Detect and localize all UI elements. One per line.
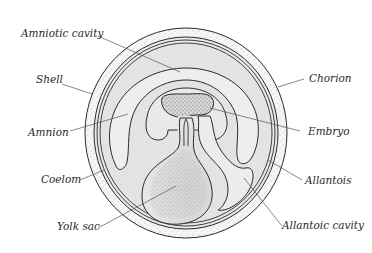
leader-chorion xyxy=(278,79,304,87)
label-amniotic-cavity: Amniotic cavity xyxy=(21,28,103,39)
label-shell: Shell xyxy=(36,74,63,85)
leader-shell xyxy=(62,84,92,94)
amniotic-egg-diagram: Amniotic cavity Shell Amnion Coelom Yolk… xyxy=(0,0,372,253)
label-allantoic-cavity: Allantoic cavity xyxy=(282,220,364,231)
label-coelom: Coelom xyxy=(41,174,81,185)
label-allantois: Allantois xyxy=(305,175,352,186)
label-chorion: Chorion xyxy=(309,73,352,84)
label-amnion: Amnion xyxy=(28,127,69,138)
label-embryo: Embryo xyxy=(308,126,350,137)
embryo xyxy=(162,94,214,117)
label-yolk-sac: Yolk sac xyxy=(57,221,100,232)
